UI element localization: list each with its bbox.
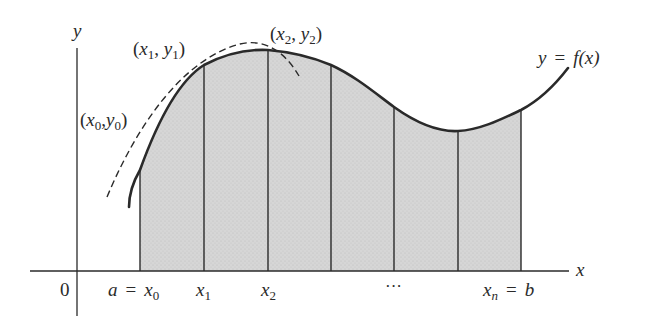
tick-label-a-x0: a=x0 xyxy=(108,279,159,303)
x-axis-label: x xyxy=(575,259,585,280)
origin-label: 0 xyxy=(60,279,70,300)
tick-label-x2: x2 xyxy=(260,279,276,303)
svg-text:xn=b: xn=b xyxy=(482,279,534,303)
svg-text:y=f(x): y=f(x) xyxy=(536,47,600,69)
tick-label-xn-b: xn=b xyxy=(482,279,534,303)
point-label-2: (x2, y2) xyxy=(270,23,322,47)
svg-text:(x0,y0): (x0,y0) xyxy=(80,109,127,133)
y-axis-label: y xyxy=(71,20,82,41)
tick-label-ellipsis: ··· xyxy=(385,277,402,296)
point-label-0: (x0,y0) xyxy=(80,109,127,133)
svg-text:a=x0: a=x0 xyxy=(108,279,159,303)
svg-text:x2: x2 xyxy=(260,279,276,303)
point-label-1: (x1, y1) xyxy=(133,38,185,62)
svg-text:(x1, y1): (x1, y1) xyxy=(133,38,185,62)
svg-text:(x2, y2): (x2, y2) xyxy=(270,23,322,47)
trapezoid-rule-diagram: y x 0 (x0,y0) (x1, y1) (x2, y2) y=f(x) a… xyxy=(0,0,651,330)
curve-label: y=f(x) xyxy=(536,47,600,69)
tick-label-x1: x1 xyxy=(195,279,211,303)
svg-text:x1: x1 xyxy=(195,279,211,303)
